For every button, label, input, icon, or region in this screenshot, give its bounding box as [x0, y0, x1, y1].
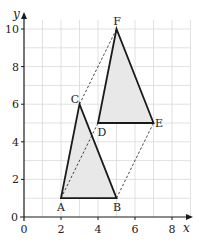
translation-diagram: y x 0 2 4 6 8 0 2 4 6 8 10 A B C D E F [0, 0, 198, 242]
y-tick-8: 8 [12, 61, 19, 74]
y-tick-10: 10 [5, 23, 19, 36]
vertex-label-f: F [113, 15, 121, 28]
x-tick-6: 6 [132, 223, 139, 236]
y-tick-2: 2 [12, 173, 19, 186]
triangle-def [98, 29, 154, 123]
y-tick-0: 0 [11, 211, 18, 224]
y-tick-6: 6 [12, 98, 19, 111]
x-tick-8: 8 [169, 223, 176, 236]
y-tick-4: 4 [12, 136, 19, 149]
vertex-label-d: D [98, 126, 107, 139]
x-tick-0: 0 [21, 223, 28, 236]
vertex-label-c: C [71, 93, 79, 106]
x-axis-arrow-icon [186, 214, 193, 220]
vertex-label-a: A [56, 201, 66, 214]
x-axis-label: x [183, 221, 190, 235]
y-axis-arrow-icon [21, 12, 27, 19]
vertex-label-e: E [155, 117, 163, 130]
x-tick-2: 2 [58, 223, 65, 236]
vertex-label-b: B [113, 201, 121, 214]
y-axis-label: y [12, 7, 20, 21]
x-tick-4: 4 [95, 223, 102, 236]
